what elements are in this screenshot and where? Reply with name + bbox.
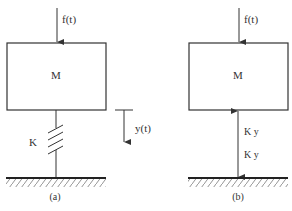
panel-b: f(t) M K y K y (b) bbox=[188, 8, 288, 203]
force-label-a: f(t) bbox=[62, 13, 76, 26]
caption-b: (b) bbox=[232, 191, 244, 203]
mass-label-a: M bbox=[51, 69, 61, 81]
lower-force-label: K y bbox=[244, 149, 259, 160]
spring-label-a: K bbox=[29, 136, 37, 148]
spring-icon bbox=[48, 110, 63, 178]
mass-label-b: M bbox=[233, 69, 243, 81]
ground-hatch-a bbox=[6, 179, 106, 187]
mass-spring-diagram: f(t) M K y(t) (a) f(t) M K y bbox=[0, 0, 292, 211]
ground-hatch-b bbox=[188, 179, 288, 187]
force-label-b: f(t) bbox=[244, 13, 258, 26]
panel-a: f(t) M K y(t) (a) bbox=[6, 8, 151, 203]
displacement-label: y(t) bbox=[135, 122, 151, 135]
upper-force-label: K y bbox=[244, 126, 259, 137]
caption-a: (a) bbox=[49, 191, 60, 203]
